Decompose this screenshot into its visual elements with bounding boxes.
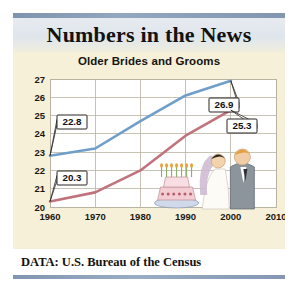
infographic-root: Numbers in the News Older Brides and Gro… <box>0 0 298 292</box>
callout-value: 25.3 <box>232 120 252 131</box>
x-axis-tick-label: 2000 <box>220 211 241 222</box>
chart-subtitle: Older Brides and Grooms <box>13 55 285 67</box>
x-axis-tick-label: 1980 <box>130 211 151 222</box>
y-axis-tick-label: 22 <box>34 165 45 176</box>
y-axis-tick-label: 24 <box>34 128 45 139</box>
y-axis-tick-label: 25 <box>34 110 45 121</box>
callout-value: 22.8 <box>62 116 82 127</box>
line-chart: 2021222324252627196019701980199020002010… <box>13 71 285 241</box>
data-source-label: DATA: U.S. Bureau of the Census <box>21 255 201 270</box>
footer-rule <box>13 275 285 279</box>
news-graphic-card: Numbers in the News Older Brides and Gro… <box>13 13 285 279</box>
x-axis-tick-label: 1990 <box>175 211 196 222</box>
x-axis-tick-label: 1960 <box>39 211 60 222</box>
page-title: Numbers in the News <box>13 18 285 52</box>
x-axis-tick-label: 2010 <box>265 211 285 222</box>
chart-container: 2021222324252627196019701980199020002010… <box>13 71 285 241</box>
y-axis-tick-label: 23 <box>34 147 45 158</box>
callout-value: 26.9 <box>214 99 234 110</box>
y-axis-tick-label: 26 <box>34 92 45 103</box>
callout-value: 20.3 <box>62 172 82 183</box>
y-axis-tick-label: 27 <box>34 74 45 85</box>
footer-band: DATA: U.S. Bureau of the Census <box>13 249 285 279</box>
y-axis-tick-label: 21 <box>34 183 45 194</box>
x-axis-tick-label: 1970 <box>85 211 106 222</box>
